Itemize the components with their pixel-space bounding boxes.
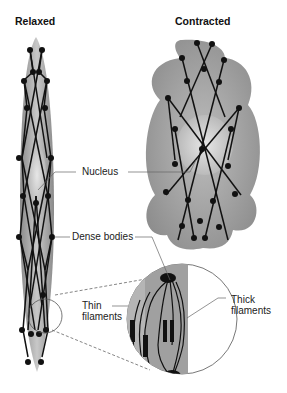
- label-thick-line2: filaments: [231, 305, 271, 316]
- smooth-muscle-diagram: [0, 0, 287, 393]
- label-thin-filaments: Thin filaments: [82, 300, 122, 322]
- title-relaxed: Relaxed: [15, 15, 55, 27]
- label-thin-line2: filaments: [82, 311, 122, 322]
- label-thick-line1: Thick: [231, 294, 255, 305]
- contracted-cell: [146, 40, 260, 250]
- title-contracted: Contracted: [175, 15, 230, 27]
- label-nucleus: Nucleus: [82, 166, 118, 177]
- relaxed-cell: [16, 37, 62, 372]
- label-thin-line1: Thin: [82, 300, 101, 311]
- label-thick-filaments: Thick filaments: [231, 294, 271, 316]
- magnified-inset: [120, 260, 237, 382]
- label-dense-bodies: Dense bodies: [72, 231, 133, 242]
